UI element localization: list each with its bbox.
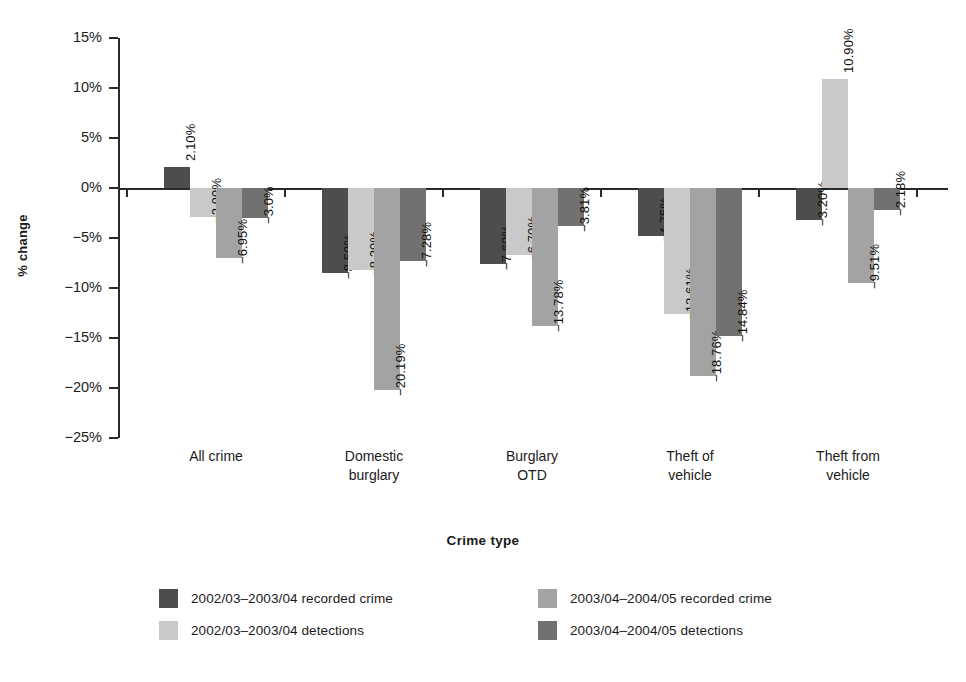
legend-label: 2002/03–2003/04 recorded crime [191,591,393,606]
y-axis-tick [109,287,118,289]
y-axis-tick [109,187,118,189]
y-axis-tick-label: −25% [40,429,102,445]
plot-area: 2.10%−2.90%−6.95%−3.0%−8.50%−8.20%−20.19… [118,38,948,438]
x-axis-category-label: Theft from vehicle [768,447,928,485]
bar-value-label: −3.81% [577,187,592,232]
x-axis-category-label: All crime [136,447,296,466]
x-axis-category-label: Domestic burglary [294,447,454,485]
y-axis-tick-label: 15% [40,29,102,45]
y-axis-tick-label: −20% [40,379,102,395]
legend-label: 2003/04–2004/05 detections [570,623,743,638]
bar-value-label: −2.18% [893,171,908,216]
legend-label: 2002/03–2003/04 detections [191,623,364,638]
y-axis-tick [109,437,118,439]
bar-value-label: 10.90% [841,28,856,73]
bar-value-label: −3.0% [261,186,276,224]
legend-item[interactable]: 2002/03–2003/04 detections [159,621,364,640]
y-axis-tick [109,137,118,139]
legend-swatch [538,589,557,608]
legend-swatch [538,621,557,640]
y-axis-tick [109,237,118,239]
y-axis-tick-label: 5% [40,129,102,145]
x-axis-tick [126,188,128,197]
x-axis-tick [442,188,444,197]
legend-item[interactable]: 2003/04–2004/05 detections [538,621,743,640]
bar-value-label: −6.95% [235,218,250,263]
bar-value-label: −9.51% [867,244,882,289]
y-axis-tick [109,87,118,89]
bar-chart: % change 2.10%−2.90%−6.95%−3.0%−8.50%−8.… [0,0,966,682]
x-axis-category-label: Burglary OTD [452,447,612,485]
legend-label: 2003/04–2004/05 recorded crime [570,591,772,606]
legend-swatch [159,589,178,608]
bar-value-label: 2.10% [183,124,198,161]
y-axis-line [118,38,120,438]
chart-legend: 2002/03–2003/04 recorded crime2003/04–20… [159,589,859,659]
y-axis-tick-label: 10% [40,79,102,95]
x-axis-tick [284,188,286,197]
y-axis-tick-label: 0% [40,179,102,195]
y-axis-tick [109,37,118,39]
x-axis-tick [758,188,760,197]
bar-value-label: −7.28% [419,222,434,267]
bar-value-label: −20.19% [393,344,408,396]
y-axis-tick-label: −10% [40,279,102,295]
y-axis-tick [109,387,118,389]
bar [164,167,190,188]
x-axis-title: Crime type [0,533,966,548]
x-axis-category-label: Theft of vehicle [610,447,770,485]
legend-item[interactable]: 2003/04–2004/05 recorded crime [538,589,772,608]
y-axis-tick-label: −15% [40,329,102,345]
bar-value-label: −14.84% [735,290,750,342]
bar [822,79,848,188]
y-axis-title: % change [15,186,30,306]
x-axis-tick [916,188,918,197]
y-axis-tick-label: −5% [40,229,102,245]
y-axis-tick [109,337,118,339]
legend-swatch [159,621,178,640]
x-axis-tick [600,188,602,197]
legend-item[interactable]: 2002/03–2003/04 recorded crime [159,589,393,608]
bar-value-label: −18.76% [709,329,724,381]
bar-value-label: −13.78% [551,279,566,331]
